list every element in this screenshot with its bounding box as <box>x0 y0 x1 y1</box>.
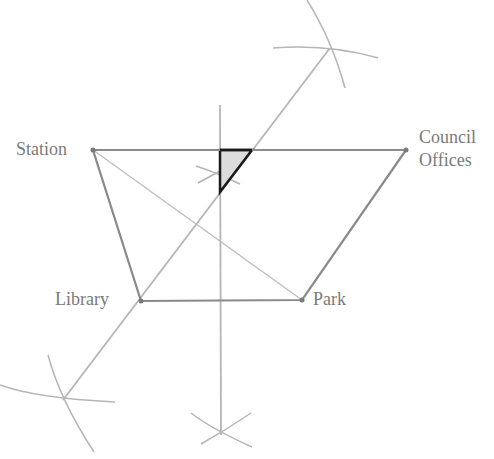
station-label: Station <box>16 139 67 160</box>
shaded-triangle-region <box>220 150 252 192</box>
construction-diagram <box>0 0 494 459</box>
council-offices-point <box>404 148 409 153</box>
arc-bottom-center-b <box>201 413 251 444</box>
park-point <box>300 298 305 303</box>
diagram-canvas: Station Council Offices Library Park <box>0 0 494 459</box>
library-point <box>139 299 144 304</box>
council-label-line2: Offices <box>419 150 472 171</box>
park-label: Park <box>313 289 346 310</box>
arc-bottom-left-horizontal <box>0 385 115 402</box>
station-point <box>91 148 96 153</box>
library-label: Library <box>55 289 109 310</box>
quadrilateral-outline <box>93 150 406 301</box>
arc-top-steep <box>307 0 345 88</box>
diagonal-station-park <box>93 150 302 300</box>
council-label-line1: Council <box>419 127 476 148</box>
